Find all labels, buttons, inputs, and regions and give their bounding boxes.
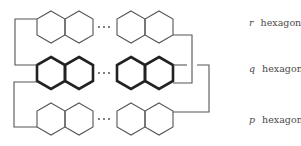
row-top-ellipsis xyxy=(98,26,110,28)
connector-right-bottom-b xyxy=(173,65,209,112)
row-top-hexagons xyxy=(37,11,173,43)
label-text: hexagons xyxy=(262,63,301,74)
label-text: hexagons xyxy=(262,114,301,125)
connector-right-top xyxy=(173,35,192,83)
label-bottom-row: phexagons xyxy=(249,114,301,125)
label-variable-p: p xyxy=(249,114,255,125)
hexagon xyxy=(117,11,145,43)
hexagon xyxy=(145,11,173,43)
hexagon xyxy=(145,103,173,135)
row-middle-ellipsis xyxy=(98,72,110,74)
hexagon xyxy=(37,11,65,43)
hexagon xyxy=(65,57,93,89)
label-middle-row: qhexagons xyxy=(249,63,301,74)
hexagon xyxy=(65,11,93,43)
hexagon xyxy=(117,57,145,89)
hexagon xyxy=(37,103,65,135)
row-bottom-hexagons xyxy=(37,103,173,135)
row-middle-hexagons xyxy=(37,57,173,89)
row-bottom-ellipsis xyxy=(98,118,110,120)
label-top-row: rhexagons xyxy=(249,17,301,28)
connector-left-bottom xyxy=(14,82,37,127)
label-variable-q: q xyxy=(249,63,255,74)
label-variable-r: r xyxy=(249,17,254,28)
hexagon xyxy=(65,103,93,135)
connector-lines xyxy=(14,19,209,127)
connector-left-top xyxy=(15,19,37,65)
hexagon xyxy=(117,103,145,135)
hexagon xyxy=(145,57,173,89)
label-text: hexagons xyxy=(261,17,301,28)
hexagon xyxy=(37,57,65,89)
